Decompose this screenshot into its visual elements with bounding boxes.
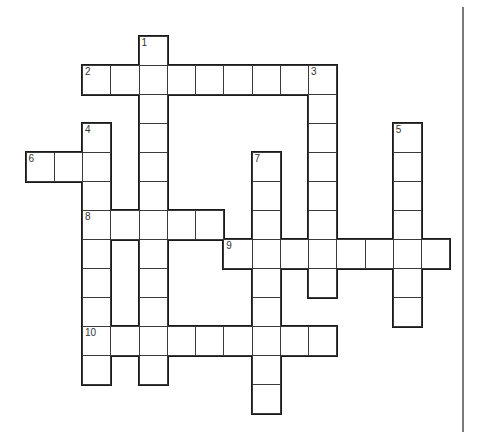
page-divider-line xyxy=(462,7,464,432)
crossword-cell[interactable] xyxy=(308,181,337,211)
crossword-cell[interactable] xyxy=(195,210,224,240)
clue-number: 3 xyxy=(311,67,317,77)
crossword-cell[interactable] xyxy=(308,268,337,298)
clue-number: 5 xyxy=(396,125,402,135)
crossword-cell[interactable] xyxy=(280,65,309,95)
crossword-cell[interactable] xyxy=(252,268,281,298)
crossword-cell[interactable]: 9 xyxy=(223,239,252,269)
crossword-cell[interactable]: 1 xyxy=(139,36,168,66)
crossword-cell[interactable] xyxy=(82,239,111,269)
crossword-cell[interactable] xyxy=(421,239,450,269)
crossword-grid: 12348105679 xyxy=(0,0,481,436)
crossword-cell[interactable] xyxy=(195,326,224,356)
crossword-cell[interactable] xyxy=(195,65,224,95)
crossword-cell[interactable] xyxy=(139,210,168,240)
clue-number: 9 xyxy=(226,241,232,251)
crossword-cell[interactable] xyxy=(252,355,281,385)
crossword-cell[interactable]: 3 xyxy=(308,65,337,95)
crossword-cell[interactable] xyxy=(393,297,422,327)
crossword-cell[interactable]: 8 xyxy=(82,210,111,240)
crossword-cell[interactable] xyxy=(139,181,168,211)
crossword-cell[interactable] xyxy=(252,181,281,211)
crossword-cell[interactable]: 6 xyxy=(26,152,55,182)
clue-number: 7 xyxy=(255,154,261,164)
crossword-cell[interactable] xyxy=(110,210,139,240)
clue-number: 4 xyxy=(85,125,91,135)
crossword-cell[interactable] xyxy=(139,326,168,356)
crossword-cell[interactable] xyxy=(308,326,337,356)
crossword-cell[interactable] xyxy=(82,152,111,182)
crossword-cell[interactable] xyxy=(223,65,252,95)
crossword-cell[interactable] xyxy=(280,239,309,269)
crossword-cell[interactable]: 4 xyxy=(82,123,111,153)
crossword-cell[interactable] xyxy=(252,210,281,240)
crossword-cell[interactable] xyxy=(139,268,168,298)
crossword-cell[interactable] xyxy=(308,123,337,153)
crossword-cell[interactable] xyxy=(82,181,111,211)
clue-number: 8 xyxy=(85,212,91,222)
crossword-cell[interactable] xyxy=(139,94,168,124)
crossword-cell[interactable] xyxy=(110,65,139,95)
crossword-cell[interactable] xyxy=(252,326,281,356)
crossword-cell[interactable] xyxy=(82,268,111,298)
crossword-cell[interactable] xyxy=(393,268,422,298)
crossword-cell[interactable] xyxy=(252,384,281,414)
crossword-cell[interactable] xyxy=(308,94,337,124)
crossword-cell[interactable] xyxy=(139,297,168,327)
crossword-cell[interactable] xyxy=(308,239,337,269)
crossword-cell[interactable] xyxy=(365,239,394,269)
crossword-cell[interactable] xyxy=(110,326,139,356)
crossword-cell[interactable] xyxy=(139,123,168,153)
crossword-cell[interactable] xyxy=(252,65,281,95)
crossword-cell[interactable]: 7 xyxy=(252,152,281,182)
clue-number: 10 xyxy=(85,328,96,338)
crossword-cell[interactable]: 10 xyxy=(82,326,111,356)
crossword-cell[interactable] xyxy=(223,326,252,356)
crossword-cell[interactable]: 2 xyxy=(82,65,111,95)
crossword-cell[interactable] xyxy=(393,210,422,240)
crossword-cell[interactable] xyxy=(54,152,83,182)
crossword-cell[interactable]: 5 xyxy=(393,123,422,153)
clue-number: 6 xyxy=(29,154,35,164)
crossword-cell[interactable] xyxy=(393,152,422,182)
crossword-cell[interactable] xyxy=(82,297,111,327)
crossword-cell[interactable] xyxy=(167,326,196,356)
crossword-cell[interactable] xyxy=(139,152,168,182)
crossword-cell[interactable] xyxy=(308,152,337,182)
crossword-cell[interactable] xyxy=(252,297,281,327)
crossword-cell[interactable] xyxy=(336,239,365,269)
crossword-cell[interactable] xyxy=(308,210,337,240)
crossword-cell[interactable] xyxy=(139,355,168,385)
crossword-cell[interactable] xyxy=(167,65,196,95)
crossword-cell[interactable] xyxy=(139,65,168,95)
crossword-cell[interactable] xyxy=(139,239,168,269)
clue-number: 2 xyxy=(85,67,91,77)
crossword-cell[interactable] xyxy=(393,239,422,269)
crossword-cell[interactable] xyxy=(393,181,422,211)
crossword-cell[interactable] xyxy=(82,355,111,385)
crossword-cell[interactable] xyxy=(167,210,196,240)
crossword-cell[interactable] xyxy=(280,326,309,356)
crossword-cell[interactable] xyxy=(252,239,281,269)
clue-number: 1 xyxy=(142,38,148,48)
